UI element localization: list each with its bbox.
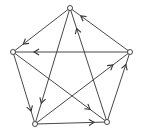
node-bottom-right — [105, 120, 110, 125]
edge-top-to-bottom-left — [35, 8, 70, 124]
edge-bottom-left-to-bottom-right — [35, 122, 107, 124]
node-left — [11, 50, 16, 55]
edge-left-to-bottom-left — [13, 52, 35, 124]
graph-canvas — [0, 0, 143, 135]
edge-bottom-right-to-right — [107, 52, 130, 122]
node-top — [68, 6, 73, 11]
edge-left-to-bottom-right — [13, 52, 107, 122]
edge-top-to-left — [13, 8, 70, 52]
node-right — [128, 50, 133, 55]
directed-graph-diagram — [0, 0, 143, 135]
node-bottom-left — [33, 122, 38, 127]
edge-bottom-left-to-right — [35, 52, 130, 124]
arrowhead-icon — [81, 16, 87, 21]
